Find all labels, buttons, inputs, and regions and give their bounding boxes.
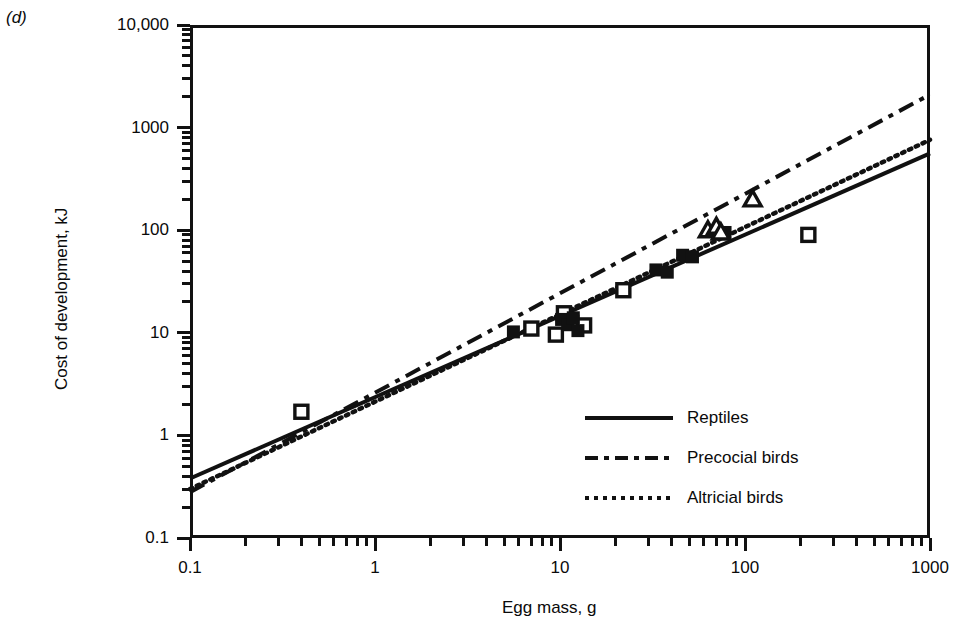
y-tick-minor: [182, 457, 190, 460]
y-tick-minor: [182, 336, 190, 339]
x-tick-minor: [799, 538, 802, 546]
x-tick-minor: [735, 538, 738, 546]
y-tick-minor: [182, 136, 190, 139]
y-tick-minor: [182, 251, 190, 254]
x-tick-minor: [900, 538, 903, 546]
x-tick-label: 1: [370, 558, 379, 578]
y-tick-minor: [182, 77, 190, 80]
x-tick-minor: [356, 538, 359, 546]
y-tick-minor: [182, 403, 190, 406]
y-tick-minor: [182, 506, 190, 509]
y-tick-minor: [182, 362, 190, 365]
panel-label: (d): [6, 8, 27, 28]
x-tick-minor: [647, 538, 650, 546]
y-tick-label: 1000: [60, 118, 169, 138]
y-tick-minor: [182, 149, 190, 152]
y-tick-label: 0.1: [60, 528, 169, 548]
legend-label-reptiles: Reptiles: [687, 408, 748, 428]
y-tick-minor: [182, 142, 190, 145]
y-tick-major: [177, 331, 190, 334]
x-tick-minor: [911, 538, 914, 546]
x-tick-minor: [832, 538, 835, 546]
y-tick-minor: [182, 282, 190, 285]
y-tick-minor: [182, 439, 190, 442]
x-tick-minor: [550, 538, 553, 546]
y-tick-label: 100: [60, 220, 169, 240]
legend-swatch-solid: [585, 411, 673, 425]
x-tick-minor: [887, 538, 890, 546]
x-tick-label: 0.1: [178, 558, 202, 578]
x-tick-minor: [332, 538, 335, 546]
y-tick-label: 10: [60, 323, 169, 343]
x-tick-major: [374, 538, 377, 551]
x-tick-major: [744, 538, 747, 551]
y-tick-minor: [182, 300, 190, 303]
legend-item-altricial-birds: Altricial birds: [585, 478, 799, 518]
y-tick-minor: [182, 180, 190, 183]
y-tick-minor: [182, 167, 190, 170]
y-tick-minor: [182, 450, 190, 453]
y-tick-minor: [182, 233, 190, 236]
x-tick-minor: [318, 538, 321, 546]
x-tick-minor: [462, 538, 465, 546]
legend: Reptiles Precocial birds Altricial birds: [585, 398, 799, 518]
y-tick-minor: [182, 28, 190, 31]
x-tick-minor: [670, 538, 673, 546]
y-tick-minor: [182, 54, 190, 57]
y-tick-minor: [182, 475, 190, 478]
y-tick-minor: [182, 385, 190, 388]
legend-item-precocial-birds: Precocial birds: [585, 438, 799, 478]
x-axis-title: Egg mass, g: [502, 598, 597, 618]
x-tick-major: [559, 538, 562, 551]
y-tick-minor: [182, 39, 190, 42]
x-tick-minor: [485, 538, 488, 546]
y-tick-minor: [182, 260, 190, 263]
x-tick-minor: [517, 538, 520, 546]
y-tick-minor: [182, 95, 190, 98]
figure-panel-d: (d) Cost of development, kJ Egg mass, g …: [0, 0, 963, 638]
y-tick-minor: [182, 354, 190, 357]
x-tick-minor: [855, 538, 858, 546]
x-tick-minor: [244, 538, 247, 546]
y-tick-minor: [182, 341, 190, 344]
plot-frame: [190, 25, 930, 538]
y-tick-minor: [182, 33, 190, 36]
y-tick-major: [177, 434, 190, 437]
y-tick-minor: [182, 46, 190, 49]
x-tick-minor: [541, 538, 544, 546]
legend-item-reptiles: Reptiles: [585, 398, 799, 438]
x-tick-minor: [345, 538, 348, 546]
y-tick-major: [177, 24, 190, 27]
x-tick-minor: [726, 538, 729, 546]
y-tick-minor: [182, 444, 190, 447]
x-tick-minor: [715, 538, 718, 546]
y-tick-minor: [182, 372, 190, 375]
x-tick-minor: [429, 538, 432, 546]
y-tick-minor: [182, 131, 190, 134]
y-tick-minor: [182, 198, 190, 201]
y-tick-minor: [182, 488, 190, 491]
y-tick-label: 1: [60, 425, 169, 445]
legend-swatch-dash-dot: [585, 451, 673, 465]
x-tick-minor: [920, 538, 923, 546]
legend-label-altricial-birds: Altricial birds: [687, 488, 783, 508]
y-tick-minor: [182, 64, 190, 67]
x-tick-minor: [277, 538, 280, 546]
x-tick-minor: [365, 538, 368, 546]
x-tick-minor: [530, 538, 533, 546]
y-tick-minor: [182, 465, 190, 468]
x-tick-major: [929, 538, 932, 551]
y-tick-minor: [182, 157, 190, 160]
legend-swatch-dotted: [585, 491, 673, 505]
y-tick-minor: [182, 347, 190, 350]
y-tick-minor: [182, 245, 190, 248]
x-tick-minor: [300, 538, 303, 546]
x-tick-minor: [873, 538, 876, 546]
x-tick-label: 10: [551, 558, 570, 578]
x-tick-minor: [702, 538, 705, 546]
x-tick-minor: [614, 538, 617, 546]
y-tick-minor: [182, 239, 190, 242]
x-tick-major: [189, 538, 192, 551]
y-tick-minor: [182, 270, 190, 273]
legend-label-precocial-birds: Precocial birds: [687, 448, 799, 468]
